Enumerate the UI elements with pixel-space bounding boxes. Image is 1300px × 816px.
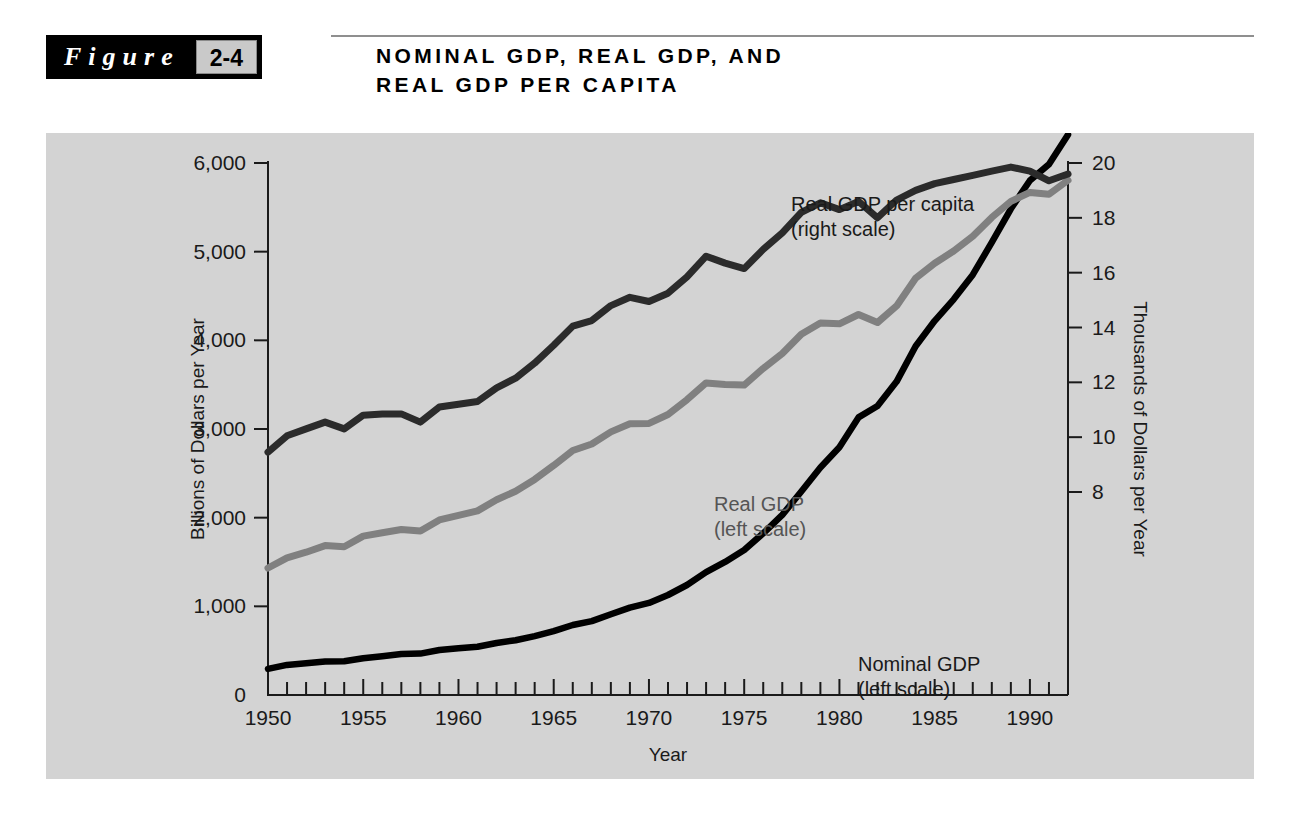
series-line-real-gdp [268,180,1068,568]
chart-panel: 01,0002,0003,0004,0005,0006,000 81012141… [46,133,1254,779]
gdp-line-chart: 01,0002,0003,0004,0005,0006,000 81012141… [46,133,1254,779]
right-axis-title: Thousands of Dollars per Year [1130,301,1151,557]
x-axis-tick-label: 1980 [816,706,863,729]
x-axis-tick-labels: 195019551960196519701975198019851990 [245,706,1054,729]
x-axis-tick-label: 1950 [245,706,292,729]
x-axis-tick-label: 1985 [911,706,958,729]
right-axis-tick-label: 10 [1092,425,1115,448]
left-axis-tick-label: 6,000 [193,151,246,174]
header-divider [331,35,1254,37]
figure-tag: Figure 2-4 [46,35,262,79]
series-annotations: Real GDP per capita(right scale)Real GDP… [714,193,980,700]
figure-number-badge: 2-4 [196,40,257,74]
figure-word: Figure [64,42,196,72]
x-axis-tick-label: 1965 [530,706,577,729]
x-axis-tick-label: 1990 [1007,706,1054,729]
x-axis-tick-label: 1960 [435,706,482,729]
left-axis-tick-label: 0 [234,683,246,706]
right-axis-tick-label: 14 [1092,316,1116,339]
right-axis-tick-labels: 8101214161820 [1092,151,1116,503]
right-axis-tick-label: 16 [1092,261,1115,284]
x-axis-title: Year [649,744,688,765]
right-axis-tick-label: 18 [1092,206,1115,229]
right-axis-tick-label: 12 [1092,370,1115,393]
figure-header: Figure 2-4 NOMINAL GDP, REAL GDP, AND RE… [46,35,1254,81]
right-axis-tick-label: 8 [1092,480,1104,503]
x-axis-tick-label: 1975 [721,706,768,729]
annotation-nominal-gdp: Nominal GDP(left scale) [858,653,980,700]
x-axis-tick-label: 1955 [340,706,387,729]
figure-title: NOMINAL GDP, REAL GDP, AND REAL GDP PER … [376,41,784,99]
right-axis-tick-label: 20 [1092,151,1115,174]
left-axis-title: Billions of Dollars per Year [187,317,208,539]
x-axis-tick-label: 1970 [626,706,673,729]
left-and-bottom-axis [268,161,1068,695]
axes-group [268,161,1068,695]
left-axis-tick-label: 5,000 [193,240,246,263]
annotation-real-gdp: Real GDP(left scale) [714,493,806,540]
left-axis-tick-label: 1,000 [193,594,246,617]
ticks-group [254,163,1082,695]
